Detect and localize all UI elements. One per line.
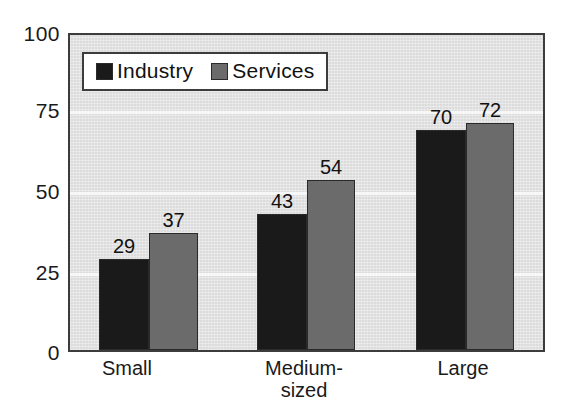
bar-small-industry	[99, 259, 149, 350]
legend-label-industry: Industry	[117, 59, 193, 83]
x-axis-label-small: Small	[67, 358, 187, 380]
x-axis-label-medium: Medium- sized	[244, 358, 364, 401]
y-axis-tick-100: 100	[2, 22, 60, 46]
bar-small-services	[149, 233, 198, 350]
bar-chart: 100 75 50 25 0 29 37 43 54 70 72 Industr…	[0, 0, 571, 412]
value-label-large-services: 72	[466, 99, 514, 122]
value-label-small-services: 37	[149, 209, 198, 232]
bar-large-services	[466, 123, 514, 350]
bar-medium-services	[307, 180, 355, 350]
value-label-medium-services: 54	[307, 156, 355, 179]
legend-item-services: Services	[211, 59, 314, 83]
legend-swatch-industry-icon	[96, 63, 113, 80]
value-label-large-industry: 70	[416, 106, 466, 129]
y-axis-tick-0: 0	[2, 341, 60, 365]
bar-large-industry	[416, 130, 466, 350]
legend-item-industry: Industry	[96, 59, 193, 83]
bar-medium-industry	[257, 214, 307, 350]
legend: Industry Services	[82, 52, 328, 91]
value-label-small-industry: 29	[99, 235, 149, 258]
value-label-medium-industry: 43	[257, 190, 307, 213]
y-axis-tick-25: 25	[2, 261, 60, 285]
legend-swatch-services-icon	[211, 63, 228, 80]
plot-area: 29 37 43 54 70 72 Industry Services	[68, 33, 545, 352]
y-axis-tick-75: 75	[2, 99, 60, 123]
x-axis-label-large: Large	[403, 358, 523, 380]
y-axis-tick-50: 50	[2, 180, 60, 204]
legend-label-services: Services	[232, 59, 314, 83]
